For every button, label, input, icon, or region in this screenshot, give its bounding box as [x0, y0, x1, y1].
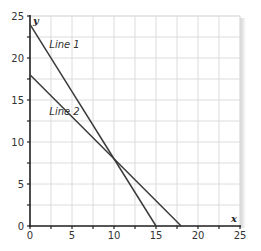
x-tick-label: 25 — [234, 230, 247, 241]
x-tick-label: 10 — [108, 230, 121, 241]
line-2-label: Line 2 — [49, 106, 79, 117]
y-axis-label: y — [32, 15, 40, 26]
y-tick-label: 10 — [11, 137, 24, 148]
x-tick-label: 5 — [69, 230, 75, 241]
x-tick-label: 0 — [27, 230, 33, 241]
x-tick-label: 20 — [192, 230, 205, 241]
x-axis-label: x — [230, 213, 238, 224]
y-tick-label: 25 — [11, 11, 24, 22]
x-tick-label: 15 — [150, 230, 163, 241]
y-tick-label: 20 — [11, 53, 24, 64]
line-1-label: Line 1 — [49, 39, 79, 50]
x-tick-labels: 0510152025 — [27, 230, 247, 241]
y-tick-label: 15 — [11, 95, 24, 106]
plot-shadow — [240, 18, 246, 228]
y-tick-labels: 0510152025 — [11, 11, 24, 232]
line-chart: 0510152025 0510152025 y x Line 1 Line 2 — [0, 0, 261, 251]
y-tick-label: 5 — [18, 179, 24, 190]
y-tick-label: 0 — [18, 221, 24, 232]
